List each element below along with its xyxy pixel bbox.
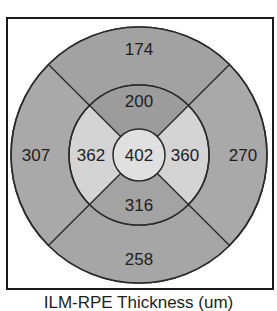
thickness-map: 174 200 307 362 402 360 270 316 258 (0, 0, 277, 311)
value-inner-superior: 200 (125, 92, 153, 111)
value-outer-inferior: 258 (125, 250, 153, 269)
value-inner-right: 360 (171, 146, 199, 165)
value-inner-inferior: 316 (125, 196, 153, 215)
value-outer-right: 270 (229, 146, 257, 165)
value-outer-left: 307 (22, 146, 50, 165)
value-inner-left: 362 (77, 146, 105, 165)
map-caption: ILM-RPE Thickness (um) (0, 293, 277, 311)
value-center: 402 (125, 146, 153, 165)
value-outer-superior: 174 (125, 40, 153, 59)
